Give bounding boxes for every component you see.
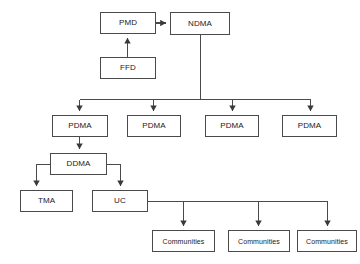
node-pdma-3-label: PDMA	[220, 122, 244, 130]
node-communities-3[interactable]: Communities	[297, 230, 357, 252]
node-pdma-2[interactable]: PDMA	[127, 115, 181, 137]
node-ndma[interactable]: NDMA	[170, 12, 230, 35]
node-communities-2-label: Communities	[238, 238, 280, 245]
node-communities-2[interactable]: Communities	[228, 230, 290, 252]
node-ffd[interactable]: FFD	[100, 57, 156, 79]
node-pmd[interactable]: PMD	[100, 12, 156, 34]
node-pdma-1[interactable]: PDMA	[52, 115, 108, 137]
edge-ddma-to-uc	[107, 165, 121, 187]
node-pdma-1-label: PDMA	[68, 122, 92, 130]
node-ddma-label: DDMA	[67, 160, 91, 168]
node-pdma-2-label: PDMA	[142, 122, 166, 130]
node-pdma-4[interactable]: PDMA	[282, 115, 337, 137]
node-uc[interactable]: UC	[92, 190, 148, 212]
node-ffd-label: FFD	[120, 64, 136, 72]
node-pdma-3[interactable]: PDMA	[205, 115, 259, 137]
node-communities-3-label: Communities	[306, 238, 348, 245]
node-tma-label: TMA	[38, 197, 55, 205]
org-chart-diagram: PMD NDMA FFD PDMA PDMA PDMA PDMA DDMA TM…	[0, 0, 360, 264]
node-communities-1-label: Communities	[163, 238, 205, 245]
node-tma[interactable]: TMA	[20, 190, 73, 212]
node-ddma[interactable]: DDMA	[50, 153, 107, 175]
edge-ddma-to-tma	[37, 165, 51, 187]
node-communities-1[interactable]: Communities	[152, 230, 215, 252]
node-pmd-label: PMD	[119, 19, 137, 27]
node-uc-label: UC	[114, 197, 126, 205]
node-pdma-4-label: PDMA	[298, 122, 322, 130]
node-ndma-label: NDMA	[188, 20, 212, 28]
